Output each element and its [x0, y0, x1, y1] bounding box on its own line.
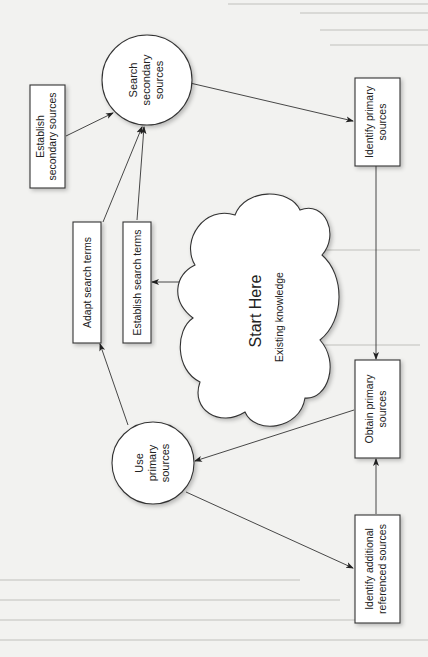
node-label-line: Establish search terms: [131, 229, 143, 335]
node-use-primary-sources: Use primary sources: [112, 422, 194, 504]
edge-adapt-terms-to-search: [103, 127, 142, 222]
edge-establish-terms-to-search: [137, 127, 144, 220]
svg-text:referenced sources: referenced sources: [376, 524, 388, 614]
svg-text:Use: Use: [133, 453, 145, 473]
node-adapt-search-terms: Adapt search terms: [73, 222, 101, 343]
edge-establish-secondary-to-search: [66, 113, 113, 136]
node-label-line: Establish: [34, 115, 46, 158]
svg-text:Establish search terms: Establish search terms: [131, 229, 143, 335]
node-label-line: sources: [376, 391, 388, 428]
node-label-line: Identify additional: [363, 528, 375, 610]
flowchart-page: Establish secondary sources Search secon…: [0, 0, 428, 657]
svg-text:secondary sources: secondary sources: [46, 92, 58, 180]
svg-text:sources: sources: [376, 391, 388, 428]
edge-use-primary-to-adapt-terms: [100, 344, 128, 425]
cloud-title: Start Here: [247, 274, 264, 347]
svg-text:sources: sources: [159, 443, 171, 482]
node-label-line: secondary sources: [46, 92, 58, 180]
edge-use-primary-to-additional: [186, 492, 353, 568]
svg-text:sources: sources: [376, 104, 388, 141]
svg-text:primary: primary: [146, 444, 158, 481]
node-label-line: Obtain primary: [363, 374, 375, 444]
svg-text:Establish: Establish: [34, 115, 46, 158]
node-label-line: sources: [376, 104, 388, 141]
svg-text:sources: sources: [153, 60, 165, 99]
node-obtain-primary-sources: Obtain primary sources: [355, 360, 400, 458]
node-label-line: referenced sources: [376, 524, 388, 614]
node-label-line: Identify primary: [363, 85, 375, 158]
svg-text:Search: Search: [127, 63, 139, 98]
svg-text:Start Here: Start Here: [247, 274, 264, 347]
node-label-line: primary: [146, 444, 158, 481]
node-label-line: secondary: [140, 54, 152, 105]
node-identify-primary-sources: Identify primary sources: [355, 78, 400, 166]
node-establish-search-terms: Establish search terms: [123, 222, 151, 343]
svg-text:Existing knowledge: Existing knowledge: [273, 272, 285, 362]
node-start-here-cloud: Start Here Existing knowledge: [178, 194, 339, 426]
node-label-line: Adapt search terms: [81, 237, 93, 328]
svg-text:Adapt search terms: Adapt search terms: [81, 237, 93, 328]
node-label-line: sources: [159, 443, 171, 482]
cloud-subtitle: Existing knowledge: [273, 272, 285, 362]
svg-text:Identify primary: Identify primary: [363, 85, 375, 158]
node-identify-additional-referenced-sources: Identify additional referenced sources: [355, 515, 400, 623]
svg-text:secondary: secondary: [140, 54, 152, 105]
edge-search-to-identify-primary: [190, 83, 353, 121]
svg-text:Obtain primary: Obtain primary: [363, 374, 375, 444]
node-search-secondary-sources: Search secondary sources: [102, 35, 192, 125]
node-label-line: Use: [133, 453, 145, 473]
svg-text:Identify additional: Identify additional: [363, 528, 375, 610]
node-label-line: sources: [153, 60, 165, 99]
node-establish-secondary-sources: Establish secondary sources: [30, 85, 65, 188]
flowchart-canvas: Establish secondary sources Search secon…: [0, 0, 428, 657]
node-label-line: Search: [127, 63, 139, 98]
